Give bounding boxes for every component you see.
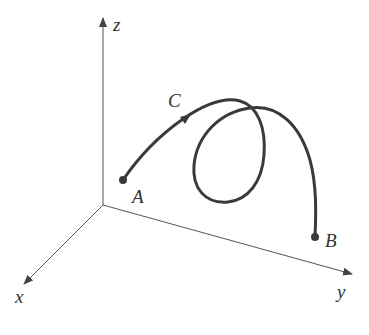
x-axis-label: x [14, 286, 24, 307]
point-a-label: A [130, 186, 144, 207]
point-b [311, 233, 319, 241]
z-axis-label: z [112, 14, 121, 35]
curve-label: C [168, 90, 181, 111]
space-curve-diagram: z x y C A B [0, 0, 369, 335]
point-b-label: B [325, 230, 337, 251]
curve-c [123, 100, 316, 237]
x-axis [24, 205, 103, 284]
direction-arrow-icon [180, 114, 191, 124]
axes [24, 18, 352, 284]
y-axis-label: y [335, 281, 346, 302]
point-a [119, 176, 127, 184]
